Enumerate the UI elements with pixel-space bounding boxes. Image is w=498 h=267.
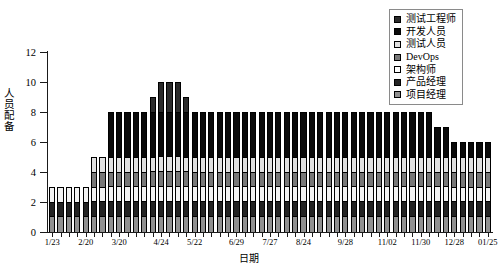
- bar-segment: [318, 217, 322, 232]
- bar: [451, 142, 457, 232]
- bar-segment: [310, 173, 314, 188]
- bar: [192, 112, 198, 232]
- bar-segment: [293, 187, 297, 202]
- x-tick: [354, 233, 355, 237]
- bar-segment: [193, 173, 197, 188]
- bar-segment: [109, 158, 113, 173]
- bar-segment: [435, 173, 439, 188]
- x-tick-label: 1/23: [45, 238, 60, 247]
- bar: [434, 127, 440, 232]
- bar-segment: [176, 187, 180, 202]
- bar-segment: [410, 187, 414, 202]
- bar-segment: [193, 217, 197, 232]
- bar-segment: [435, 158, 439, 173]
- bar-segment: [276, 217, 280, 232]
- bar-segment: [167, 217, 171, 232]
- bar-segment: [226, 113, 230, 158]
- x-tick-label: 9/28: [338, 238, 353, 247]
- bar-segment: [209, 217, 213, 232]
- bar-segment: [327, 113, 331, 158]
- bar-segment: [226, 173, 230, 188]
- bar: [217, 112, 223, 232]
- bar-segment: [234, 158, 238, 173]
- x-tick: [362, 233, 363, 237]
- x-tick: [203, 233, 204, 237]
- legend-swatch-icon: [394, 16, 401, 23]
- bar-segment: [410, 217, 414, 232]
- bar-segment: [293, 158, 297, 173]
- bar-segment: [50, 203, 54, 218]
- bar-segment: [469, 188, 473, 203]
- bar: [158, 82, 164, 232]
- bar-segment: [352, 173, 356, 188]
- bar-segment: [159, 202, 163, 217]
- bar-segment: [368, 217, 372, 232]
- bar-segment: [209, 113, 213, 158]
- bar-segment: [260, 173, 264, 188]
- legend-item[interactable]: 测试人员: [394, 38, 456, 51]
- x-tick: [471, 233, 472, 237]
- bar-segment: [285, 217, 289, 232]
- y-tick-label: 0: [31, 227, 36, 238]
- bar: [233, 112, 239, 232]
- bar-segment: [452, 202, 456, 217]
- bar-segment: [335, 173, 339, 188]
- bar-segment: [318, 158, 322, 173]
- legend-swatch-icon: [394, 54, 401, 61]
- bar-segment: [109, 202, 113, 217]
- bar-segment: [444, 158, 448, 173]
- bar-segment: [402, 113, 406, 158]
- bar-segment: [368, 158, 372, 173]
- bar-segment: [461, 143, 465, 158]
- y-tick: 4: [40, 172, 48, 173]
- y-tick: 10: [40, 82, 48, 83]
- legend-item-label: 开发人员: [406, 27, 446, 37]
- x-tick: [211, 233, 212, 237]
- bar: [351, 112, 357, 232]
- legend-item[interactable]: 架构师: [394, 63, 456, 76]
- legend-item[interactable]: 项目经理: [394, 89, 456, 102]
- bar-segment: [461, 188, 465, 203]
- bar-segment: [352, 187, 356, 202]
- legend-item[interactable]: 测试工程师: [394, 13, 456, 26]
- bar-segment: [50, 188, 54, 203]
- legend-item[interactable]: DevOps: [394, 51, 456, 64]
- bar-segment: [75, 217, 79, 232]
- bar-segment: [251, 173, 255, 188]
- bar-segment: [234, 202, 238, 217]
- legend-item[interactable]: 产品经理: [394, 76, 456, 89]
- bar-segment: [301, 158, 305, 173]
- bar-segment: [134, 113, 138, 158]
- bar-segment: [226, 187, 230, 202]
- bar-segment: [184, 172, 188, 187]
- bar-segment: [368, 173, 372, 188]
- bar-segment: [268, 217, 272, 232]
- bar-segment: [125, 113, 129, 158]
- x-tick: [136, 233, 137, 237]
- bar-segment: [377, 187, 381, 202]
- x-tick: [94, 233, 95, 237]
- bar: [284, 112, 290, 232]
- bar-segment: [327, 217, 331, 232]
- x-tick: [144, 233, 145, 237]
- bar-segment: [293, 173, 297, 188]
- bar-segment: [50, 217, 54, 232]
- bar-segment: [293, 202, 297, 217]
- bar-segment: [276, 173, 280, 188]
- bar: [183, 97, 189, 232]
- bar-segment: [385, 113, 389, 158]
- bar-segment: [343, 202, 347, 217]
- x-tick-label: 01/25: [478, 238, 497, 247]
- bar-segment: [117, 202, 121, 217]
- bar-segment: [461, 217, 465, 232]
- legend-item[interactable]: 开发人员: [394, 26, 456, 39]
- bar-segment: [486, 158, 490, 173]
- bar-segment: [419, 217, 423, 232]
- x-tick-label: 11/02: [378, 238, 397, 247]
- bar-segment: [444, 202, 448, 217]
- bar-segment: [201, 217, 205, 232]
- bar-segment: [142, 113, 146, 158]
- bar-segment: [469, 158, 473, 173]
- bar-segment: [377, 217, 381, 232]
- x-tick-label: 8/24: [296, 238, 311, 247]
